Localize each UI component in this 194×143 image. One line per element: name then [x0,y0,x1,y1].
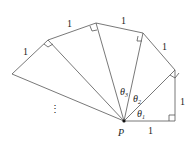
right-angle-marker [169,115,175,121]
outer-polyline [12,23,175,121]
spoke-1 [124,70,175,121]
spoke-5 [12,74,124,121]
angle-label-theta3: θ3 [120,86,128,98]
spiral-diagram: P 1 1 1 1 1 1 θ1 θ2 θ3 ⋮ [0,0,194,143]
side-label: 1 [23,46,28,57]
right-angle-marker [90,26,97,31]
side-label: 1 [162,41,167,52]
side-label: 1 [180,96,185,107]
side-label: 1 [148,125,153,136]
side-label: 1 [67,18,72,29]
right-angle-marker [44,44,53,47]
center-point [122,119,125,122]
angle-label-theta1: θ1 [137,108,145,120]
ellipsis: ⋮ [50,103,60,114]
center-label: P [117,127,124,138]
triangle-lines [12,23,179,121]
angle-label-theta2: θ2 [133,93,141,105]
side-label: 1 [121,15,126,26]
